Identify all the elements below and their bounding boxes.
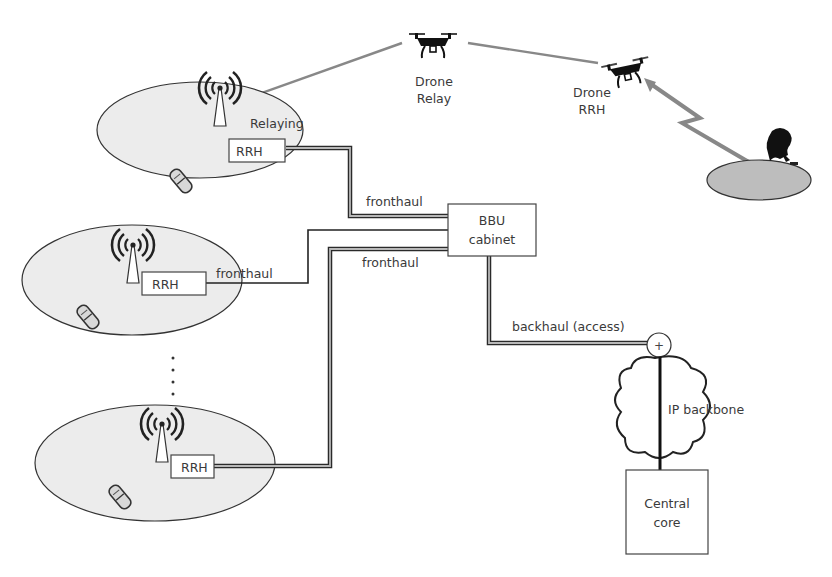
drone-relay-label-1: Drone xyxy=(415,74,453,89)
drone-rrh-label-1: Drone xyxy=(573,85,611,100)
bbu-cabinet-box xyxy=(448,204,536,256)
bbu-label-1: BBU xyxy=(479,213,505,228)
central-core-box xyxy=(626,470,708,554)
ip-backbone-label: IP backbone xyxy=(668,402,744,417)
radio-link-relay-to-drone-rrh xyxy=(468,43,598,63)
network-diagram: Drone Relay Drone RRH Relaying RRH RRH R… xyxy=(0,0,832,577)
fronthaul-label-bottom: fronthaul xyxy=(362,255,419,270)
ground-coverage-area xyxy=(707,160,811,200)
central-core-label-1: Central xyxy=(644,496,690,511)
plus-symbol: + xyxy=(654,339,664,353)
drone-relay-icon xyxy=(409,33,457,58)
more-cells-ellipsis xyxy=(172,357,175,396)
central-core-label-2: core xyxy=(653,515,680,530)
radio-link-relay-to-cell xyxy=(245,43,402,99)
rrh-label-middle: RRH xyxy=(152,277,179,292)
fronthaul-label-middle: fronthaul xyxy=(216,266,273,281)
fronthaul-label-top: fronthaul xyxy=(366,194,423,209)
user-person-icon xyxy=(767,128,798,165)
drone-relay-label-2: Relay xyxy=(417,91,452,106)
relaying-label: Relaying xyxy=(250,116,304,131)
rrh-label-top: RRH xyxy=(236,144,263,159)
drone-rrh-label-2: RRH xyxy=(579,102,606,117)
bbu-label-2: cabinet xyxy=(469,232,516,247)
rrh-label-bottom: RRH xyxy=(181,460,208,475)
backhaul-label: backhaul (access) xyxy=(512,319,625,334)
